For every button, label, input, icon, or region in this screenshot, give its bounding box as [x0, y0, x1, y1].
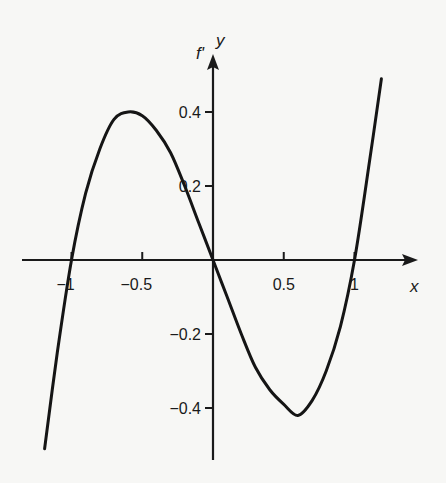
y-tick-label: 0.4: [179, 104, 201, 121]
y-tick-label: −0.2: [169, 326, 201, 343]
function-label: f': [196, 44, 205, 63]
x-tick-label: 0.5: [273, 276, 295, 293]
y-tick-label: −0.4: [169, 400, 201, 417]
chart: −1−0.50.51 0.40.2−0.2−0.4 x y f': [0, 0, 446, 483]
x-axis-label: x: [409, 277, 419, 296]
x-tick-label: −0.5: [120, 276, 152, 293]
y-axis-label: y: [215, 31, 226, 50]
x-ticks: −1−0.50.51: [56, 252, 359, 293]
